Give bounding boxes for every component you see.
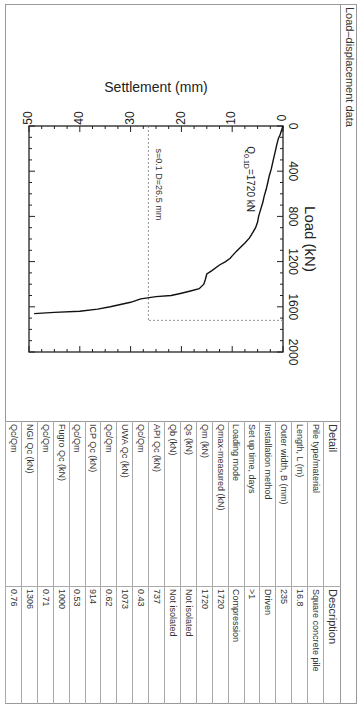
row-detail: Length, L (m)	[295, 424, 305, 477]
row-value: 1720	[216, 589, 226, 609]
y-tick-label: 30	[123, 111, 137, 125]
row-value: Compression	[232, 589, 242, 642]
row-value: 737	[152, 589, 162, 604]
table-row: Pile type/materialSquare concrete pile	[307, 421, 323, 704]
x-tick-label: 2000	[286, 339, 300, 366]
row-detail: Qs (kN)	[184, 424, 194, 455]
y-tick-label: 10	[224, 111, 238, 125]
row-detail: Qc/Qm	[73, 424, 83, 453]
table-row: Fugro Qc (kN)1000	[53, 421, 69, 704]
table-row: Qm (kN)1720	[196, 421, 212, 704]
row-value: 0.62	[104, 589, 114, 607]
table-row: NGI Qc (kN)1306	[21, 421, 37, 704]
y-axis-label: Settlement (mm)	[104, 79, 207, 95]
table-row: Installation methodDriven	[259, 421, 275, 704]
row-detail: Qc/Qm	[104, 424, 114, 453]
table-row: Qc/Qm0.53	[69, 421, 85, 704]
row-detail: Qmax-measured (kN)	[216, 424, 226, 511]
row-value: Square concrete pile	[311, 589, 321, 672]
table-row: Length, L (m)16.8	[291, 421, 307, 704]
row-value: 1073	[120, 589, 130, 609]
row-detail: Pile type/material	[311, 424, 321, 493]
table-row: Qs (kN)Not isolated	[180, 421, 196, 704]
row-value: 0.71	[41, 589, 51, 607]
row-detail: Loading mode	[232, 424, 242, 481]
row-value: Not isolated	[184, 589, 194, 637]
annotation-q01d: Q0.1D=1720 kN	[243, 146, 256, 212]
row-value: 0.76	[9, 589, 19, 607]
row-detail: API Qc (kN)	[152, 424, 162, 472]
row-detail: ICP Qc (kN)	[88, 424, 98, 472]
rotated-page: Load–displacement data 04008001200160020…	[0, 0, 361, 708]
header-detail: Detail	[327, 424, 339, 452]
table-header-row: DetailDescription	[323, 421, 341, 704]
pile-details-table: DetailDescriptionPile type/materialSquar…	[5, 421, 341, 704]
x-tick-label: 1200	[286, 248, 300, 275]
row-value: 0.43	[136, 589, 146, 607]
row-value: 1000	[57, 589, 67, 609]
y-tick-label: 20	[174, 111, 188, 125]
table-row: Loading modeCompression	[228, 421, 244, 704]
x-tick-label: 800	[286, 206, 300, 226]
table-row: Qc/Qm0.43	[132, 421, 148, 704]
table-row: ICP Qc (kN)914	[85, 421, 101, 704]
table-row: Qc/Qm0.62	[100, 421, 116, 704]
table-row: Qc/Qm0.76	[5, 421, 21, 704]
table-row: API Qc (kN)737	[148, 421, 164, 704]
x-tick-label: 0	[286, 123, 300, 130]
table-row: UWA Qc (kN)1073	[116, 421, 132, 704]
row-value: >1	[247, 589, 257, 599]
annotation-settlement: s=0.1 D=26.5 mm	[154, 149, 164, 221]
row-value: 914	[88, 589, 98, 604]
row-value: 1306	[25, 589, 35, 609]
x-tick-label: 400	[286, 161, 300, 181]
row-detail: Installation method	[263, 424, 273, 500]
row-detail: Fugro Qc (kN)	[57, 424, 67, 481]
load-settlement-chart: 040080012001600200001020304050Load (kN)S…	[0, 0, 361, 421]
y-tick-label: 50	[21, 111, 35, 125]
table-row: Set up time, days>1	[244, 421, 260, 704]
row-value: 235	[279, 589, 289, 604]
x-tick-label: 1600	[286, 293, 300, 320]
row-value: Not isolated	[168, 589, 178, 637]
row-detail: UWA Qc (kN)	[120, 424, 130, 478]
y-tick-label: 40	[72, 111, 86, 125]
row-detail: Qc/Qm	[9, 424, 19, 453]
table-row: Outer width, B (mm)235	[275, 421, 291, 704]
row-value: Driven	[263, 589, 273, 615]
row-detail: Outer width, B (mm)	[279, 424, 289, 505]
row-detail: Qc/Qm	[41, 424, 51, 453]
row-detail: Set up time, days	[247, 424, 257, 494]
header-description: Description	[327, 589, 339, 644]
row-detail: NGI Qc (kN)	[25, 424, 35, 474]
x-axis-label: Load (kN)	[302, 206, 319, 272]
row-detail: Qb (kN)	[168, 424, 178, 456]
row-value: 1720	[200, 589, 210, 609]
table-row: Qc/Qm0.71	[37, 421, 53, 704]
table-row: Qmax-measured (kN)1720	[212, 421, 228, 704]
row-detail: Qc/Qm	[136, 424, 146, 453]
row-value: 0.53	[73, 589, 83, 607]
y-tick-label: 0	[275, 114, 289, 121]
table-row: Qb (kN)Not isolated	[164, 421, 180, 704]
row-value: 16.8	[295, 589, 305, 607]
row-detail: Qm (kN)	[200, 424, 210, 458]
